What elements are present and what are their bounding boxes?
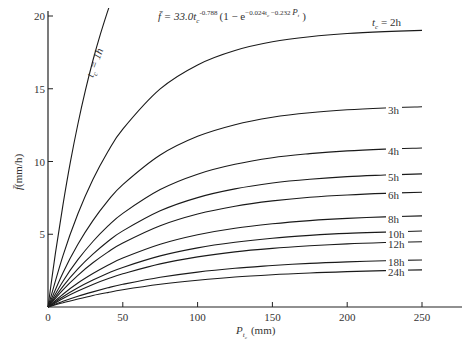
curve-label-3h: 3h <box>388 104 400 116</box>
x-axis-title: Ptc(mm) <box>235 324 276 340</box>
y-tick-label: 20 <box>34 10 46 22</box>
x-tick-label: 150 <box>264 311 281 323</box>
curve-label-8h: 8h <box>388 213 400 225</box>
curve-label-4h: 4h <box>388 145 400 157</box>
y-axis-ticks: 5101520 <box>34 10 53 240</box>
curve-10h <box>48 231 422 307</box>
curve-label-6h: 6h <box>388 189 400 201</box>
x-tick-label: 250 <box>414 311 431 323</box>
curve-label-24h: 24h <box>388 266 405 278</box>
x-tick-label: 50 <box>117 311 129 323</box>
y-axis-title: f̄(mm/h) <box>12 154 25 190</box>
curve-label-5h: 5h <box>388 171 400 183</box>
curve-2h <box>48 30 422 307</box>
curve-label-12h: 12h <box>388 238 405 250</box>
x-tick-label: 200 <box>339 311 356 323</box>
x-axis-ticks: 050100150200250 <box>45 302 431 323</box>
curves-group <box>48 0 422 307</box>
y-tick-label: 10 <box>34 156 46 168</box>
curve-label-1h: tc = 1h <box>84 46 109 80</box>
x-tick-label: 0 <box>45 311 51 323</box>
curve-1h <box>48 2 111 307</box>
curve-label-2h: tc = 2h <box>372 16 401 31</box>
curve-6h <box>48 192 422 307</box>
x-tick-label: 100 <box>189 311 206 323</box>
y-tick-label: 5 <box>40 228 46 240</box>
chart-title-formula: f̄ = 33.0tc-0.788(1 − e−0.024tc −0.232 P… <box>158 7 306 25</box>
y-tick-label: 15 <box>34 83 46 95</box>
chart: 5101520 050100150200250 f̄ = 33.0tc-0.78… <box>0 0 471 350</box>
curve-4h <box>48 148 422 307</box>
